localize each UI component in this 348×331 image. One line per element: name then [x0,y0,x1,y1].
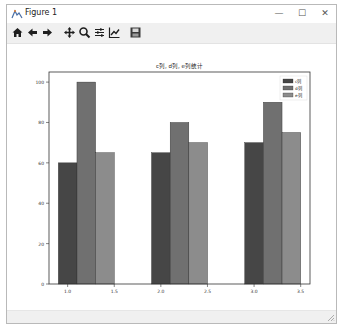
legend-swatch [283,86,293,90]
subplots-icon[interactable] [93,26,106,39]
edit-axis-icon[interactable] [108,26,121,39]
bar [282,133,301,284]
x-tick-label: 3.5 [297,289,304,294]
bar [189,143,208,284]
y-tick-label: 40 [38,201,44,206]
x-tick-label: 1.5 [111,289,118,294]
bar [170,122,189,284]
resize-grip-icon[interactable] [327,314,335,322]
back-arrow-icon[interactable] [26,26,39,39]
bar [96,153,115,284]
matplotlib-logo-icon [11,8,23,20]
legend-label: d列 [295,85,302,92]
y-tick-label: 20 [38,242,44,247]
home-icon[interactable] [11,26,24,39]
y-tick-label: 80 [38,120,44,125]
status-bar [7,310,336,323]
toolbar [7,23,336,44]
bar [58,163,77,284]
save-icon[interactable] [129,26,142,39]
bar [152,153,171,284]
legend-label: c列 [295,78,301,85]
x-tick-label: 2.0 [157,289,164,294]
bar [77,82,96,284]
minimize-button[interactable]: — [268,6,290,21]
x-tick-label: 1.0 [64,289,71,294]
x-tick-label: 3.0 [250,289,257,294]
figure-window: Figure 1 — ☐ ✕ [6,4,337,324]
maximize-button[interactable]: ☐ [291,6,313,21]
bar-chart: 0204060801001.01.52.02.53.03.5c列, d列, e列… [7,44,336,312]
chart-title: c列, d列, e列统计 [156,62,203,70]
legend-swatch [283,93,293,97]
zoom-icon[interactable] [78,26,91,39]
window-title: Figure 1 [25,8,57,17]
legend-swatch [283,79,293,83]
close-button[interactable]: ✕ [314,6,336,21]
y-tick-label: 60 [38,161,44,166]
pan-icon[interactable] [63,26,76,39]
title-bar[interactable]: Figure 1 — ☐ ✕ [7,5,336,23]
y-tick-label: 100 [35,80,44,85]
x-tick-label: 2.5 [204,289,211,294]
bar [263,102,282,284]
forward-arrow-icon[interactable] [41,26,54,39]
figure-canvas[interactable]: 0204060801001.01.52.02.53.03.5c列, d列, e列… [7,44,336,312]
y-tick-label: 0 [41,282,44,287]
bar [245,143,264,284]
legend-label: e列 [295,92,302,99]
